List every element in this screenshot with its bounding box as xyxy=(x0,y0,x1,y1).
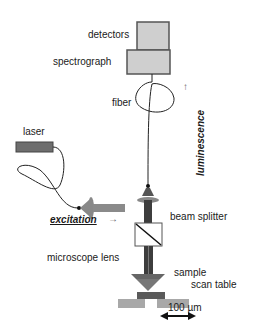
fiber-connector xyxy=(146,184,150,188)
label-microscope-lens: microscope lens xyxy=(47,253,119,263)
label-scale: 100 µm xyxy=(168,303,202,313)
scale-arrow-right xyxy=(188,312,196,320)
microscope-lens-cone xyxy=(136,279,160,291)
label-detectors: detectors xyxy=(88,30,129,40)
microscope-lens xyxy=(131,274,165,279)
setup-diagram xyxy=(0,0,262,323)
label-scan-table: scan table xyxy=(191,280,237,290)
sample xyxy=(137,292,165,299)
scan-table-left xyxy=(118,299,145,308)
excitation-arrow-icon: → xyxy=(108,214,118,224)
scale-arrow-left xyxy=(160,312,168,320)
laser-box xyxy=(16,142,53,152)
label-luminescence: luminescence xyxy=(195,110,206,176)
label-sample: sample xyxy=(174,268,206,278)
detectors-box xyxy=(137,22,169,50)
excitation-beam xyxy=(93,204,125,212)
fiber-cable xyxy=(136,74,174,186)
spectrograph-box xyxy=(127,50,170,74)
label-beam-splitter: beam splitter xyxy=(170,212,227,222)
label-fiber: fiber xyxy=(112,98,131,108)
luminescence-arrow-icon: ↑ xyxy=(183,82,188,92)
collimator-lens-upper xyxy=(142,188,154,196)
label-excitation: excitation xyxy=(50,215,97,225)
label-laser: laser xyxy=(23,127,45,137)
label-spectrograph: spectrograph xyxy=(53,57,111,67)
laser-fiber xyxy=(18,147,78,208)
